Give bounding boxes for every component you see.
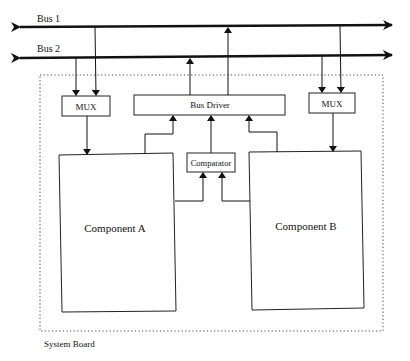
component-b-label: Component B [275,220,336,232]
bus-1-label: Bus 1 [37,13,60,24]
wire-bus1-to-mux-left [95,27,96,95]
bus-2-line [20,55,392,58]
system-board-diagram: Bus 1 Bus 2 System Board MUX Bus Driver … [0,0,410,361]
component-a: Component A [59,153,176,312]
mux-left-label: MUX [75,102,97,112]
mux-right-label: MUX [321,99,343,109]
mux-right: MUX [309,93,355,113]
component-a-label: Component A [84,222,145,234]
component-b: Component B [249,151,364,310]
wire-component-b-to-comparator [222,173,250,201]
mux-left: MUX [62,96,110,116]
bus-driver: Bus Driver [134,95,285,115]
comparator-label: Comparator [191,158,232,168]
wire-component-b-to-bus-driver [249,116,277,152]
bus-1-line [20,25,392,27]
system-board-label: System Board [44,339,95,349]
bus-2: Bus 2 [20,43,392,58]
bus-2-label: Bus 2 [37,43,60,54]
bus-driver-label: Bus Driver [190,100,230,110]
comparator: Comparator [187,153,235,172]
wire-component-a-to-bus-driver [145,116,173,154]
bus-1: Bus 1 [20,13,392,27]
wire-bus1-to-mux-right [340,26,341,92]
wire-component-a-to-comparator [175,173,203,201]
